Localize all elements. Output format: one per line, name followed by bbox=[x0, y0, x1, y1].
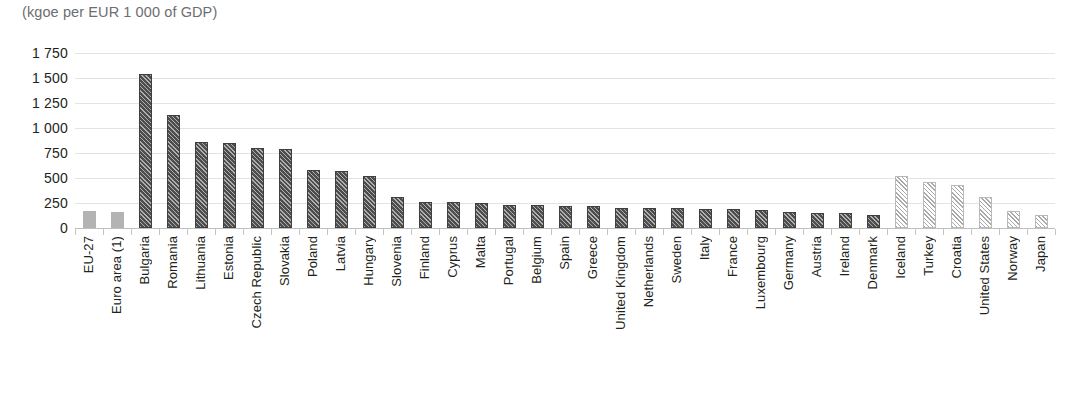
x-tick-label-malta: Malta bbox=[474, 236, 487, 268]
bar-slot bbox=[811, 53, 824, 228]
x-tick bbox=[887, 229, 888, 235]
bar-slot bbox=[951, 53, 964, 228]
bar-finland bbox=[419, 202, 432, 229]
x-tick-label-greece: Greece bbox=[586, 236, 599, 279]
x-tick-label-netherlands: Netherlands bbox=[642, 236, 655, 307]
bar-slot bbox=[503, 53, 516, 228]
bar-cyprus bbox=[447, 202, 460, 228]
x-tick-label-portugal: Portugal bbox=[502, 236, 515, 285]
x-tick-label-croatia: Croatia bbox=[950, 236, 963, 279]
bar-germany bbox=[783, 212, 796, 228]
chart-unit-subtitle: (kgoe per EUR 1 000 of GDP) bbox=[22, 4, 217, 20]
bar-slot bbox=[783, 53, 796, 228]
x-axis-ticks bbox=[75, 229, 1055, 235]
bar-slot bbox=[335, 53, 348, 228]
bar-eu-27 bbox=[83, 211, 96, 228]
x-tick bbox=[523, 229, 524, 235]
bar-slot bbox=[755, 53, 768, 228]
x-tick-label-hungary: Hungary bbox=[362, 236, 375, 286]
bar-estonia bbox=[223, 143, 236, 228]
bar-united-states bbox=[979, 197, 992, 228]
x-tick-label-bulgaria: Bulgaria bbox=[138, 236, 151, 285]
x-tick-label-japan: Japan bbox=[1034, 236, 1047, 272]
x-tick bbox=[859, 229, 860, 235]
x-tick bbox=[719, 229, 720, 235]
x-tick bbox=[467, 229, 468, 235]
x-tick-label-austria: Austria bbox=[810, 236, 823, 277]
x-tick-label-belgium: Belgium bbox=[530, 236, 543, 284]
x-tick bbox=[607, 229, 608, 235]
x-tick bbox=[383, 229, 384, 235]
bar-slot bbox=[923, 53, 936, 228]
y-tick-label-0: 0 bbox=[60, 220, 68, 236]
bar-slot bbox=[419, 53, 432, 228]
bar-japan bbox=[1035, 215, 1048, 229]
bar-slot bbox=[867, 53, 880, 228]
bar-slot bbox=[195, 53, 208, 228]
bar-slot bbox=[167, 53, 180, 228]
bar-slot bbox=[559, 53, 572, 228]
x-tick bbox=[187, 229, 188, 235]
bar-slot bbox=[643, 53, 656, 228]
x-tick-label-cyprus: Cyprus bbox=[446, 236, 459, 278]
bar-iceland bbox=[895, 176, 908, 229]
bar-slot bbox=[475, 53, 488, 228]
bar-spain bbox=[559, 206, 572, 229]
y-tick-label-1750: 1 750 bbox=[32, 45, 68, 61]
x-tick-label-slovakia: Slovakia bbox=[278, 236, 291, 286]
x-tick-label-lithuania: Lithuania bbox=[194, 236, 207, 290]
bar-slot bbox=[727, 53, 740, 228]
x-tick-label-luxembourg: Luxembourg bbox=[754, 236, 767, 309]
x-tick bbox=[1027, 229, 1028, 235]
x-tick bbox=[943, 229, 944, 235]
x-tick bbox=[971, 229, 972, 235]
x-tick bbox=[1055, 229, 1056, 235]
bar-czech-republic bbox=[251, 148, 264, 229]
y-tick-label-750: 750 bbox=[44, 145, 68, 161]
x-tick-label-turkey: Turkey bbox=[922, 236, 935, 276]
y-tick-label-1000: 1 000 bbox=[32, 120, 68, 136]
bar-slot bbox=[979, 53, 992, 228]
y-tick-label-1250: 1 250 bbox=[32, 95, 68, 111]
bar-malta bbox=[475, 203, 488, 229]
x-tick-label-germany: Germany bbox=[782, 236, 795, 290]
x-tick bbox=[747, 229, 748, 235]
x-tick bbox=[411, 229, 412, 235]
x-tick-label-united-states: United States bbox=[978, 236, 991, 315]
bar-ireland bbox=[839, 213, 852, 228]
x-tick-label-france: France bbox=[726, 236, 739, 277]
bar-slot bbox=[699, 53, 712, 228]
bar-greece bbox=[587, 206, 600, 228]
bar-belgium bbox=[531, 205, 544, 228]
bar-slot bbox=[531, 53, 544, 228]
x-tick bbox=[691, 229, 692, 235]
bar-poland bbox=[307, 170, 320, 228]
bar-series bbox=[75, 53, 1055, 228]
x-tick-label-latvia: Latvia bbox=[334, 236, 347, 271]
bar-slovenia bbox=[391, 197, 404, 228]
bar-romania bbox=[167, 115, 180, 228]
x-tick bbox=[551, 229, 552, 235]
x-tick bbox=[75, 229, 76, 235]
bar-luxembourg bbox=[755, 210, 768, 229]
bar-slot bbox=[279, 53, 292, 228]
x-tick bbox=[635, 229, 636, 235]
bar-slot bbox=[1007, 53, 1020, 228]
bar-hungary bbox=[363, 176, 376, 229]
bar-slot bbox=[587, 53, 600, 228]
x-tick-label-italy: Italy bbox=[698, 236, 711, 260]
y-tick-label-500: 500 bbox=[44, 170, 68, 186]
x-tick-label-romania: Romania bbox=[166, 236, 179, 289]
bar-lithuania bbox=[195, 142, 208, 228]
bar-slot bbox=[391, 53, 404, 228]
x-tick bbox=[103, 229, 104, 235]
bar-croatia bbox=[951, 185, 964, 228]
x-tick-label-ireland: Ireland bbox=[838, 236, 851, 276]
bar-slot bbox=[447, 53, 460, 228]
bar-slot bbox=[223, 53, 236, 228]
bar-austria bbox=[811, 213, 824, 229]
x-tick bbox=[803, 229, 804, 235]
x-tick bbox=[495, 229, 496, 235]
bar-slot bbox=[615, 53, 628, 228]
x-tick-label-finland: Finland bbox=[418, 236, 431, 279]
